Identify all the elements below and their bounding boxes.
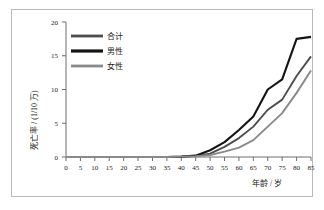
x-tick-label: 10 [91, 164, 99, 172]
y-tick-label: 5 [55, 120, 59, 128]
x-tick-label: 50 [207, 164, 215, 172]
chart-legend: 合计男性女性 [71, 31, 123, 71]
y-tick-label: 10 [51, 86, 59, 94]
x-tick-label: 70 [264, 164, 272, 172]
x-axis-title: 年龄 / 岁 [252, 178, 282, 188]
series-line-2 [66, 71, 311, 157]
x-tick-label: 35 [163, 164, 171, 172]
x-tick-label: 20 [120, 164, 128, 172]
x-tick-label: 40 [178, 164, 186, 172]
y-axis-tick-labels: 05101520 [51, 19, 59, 162]
x-tick-label: 25 [135, 164, 143, 172]
y-axis-title: 死亡率 / (1/10 万) [29, 90, 39, 150]
x-tick-label: 0 [64, 164, 68, 172]
data-series-group [66, 37, 311, 157]
line-chart: 05101520 0510152025303540455055606570758… [0, 0, 324, 210]
y-axis-ticks [62, 22, 66, 157]
x-tick-label: 5 [79, 164, 83, 172]
legend-label-0: 合计 [107, 31, 123, 41]
x-tick-label: 30 [149, 164, 157, 172]
y-tick-label: 15 [51, 52, 59, 60]
legend-label-1: 男性 [107, 46, 123, 56]
x-tick-label: 75 [279, 164, 287, 172]
x-tick-label: 85 [308, 164, 316, 172]
x-tick-label: 60 [235, 164, 243, 172]
x-tick-label: 65 [250, 164, 258, 172]
plot-area: 05101520 0510152025303540455055606570758… [0, 0, 324, 210]
chart-figure: 05101520 0510152025303540455055606570758… [0, 0, 324, 210]
series-line-0 [66, 56, 311, 157]
y-tick-label: 0 [55, 154, 59, 162]
x-tick-label: 55 [221, 164, 229, 172]
x-tick-label: 15 [106, 164, 114, 172]
series-line-1 [66, 37, 311, 157]
x-tick-label: 45 [192, 164, 200, 172]
x-axis-tick-labels: 0510152025303540455055606570758085 [64, 164, 315, 172]
legend-label-2: 女性 [107, 61, 123, 71]
x-tick-label: 80 [293, 164, 301, 172]
y-tick-label: 20 [51, 19, 59, 27]
